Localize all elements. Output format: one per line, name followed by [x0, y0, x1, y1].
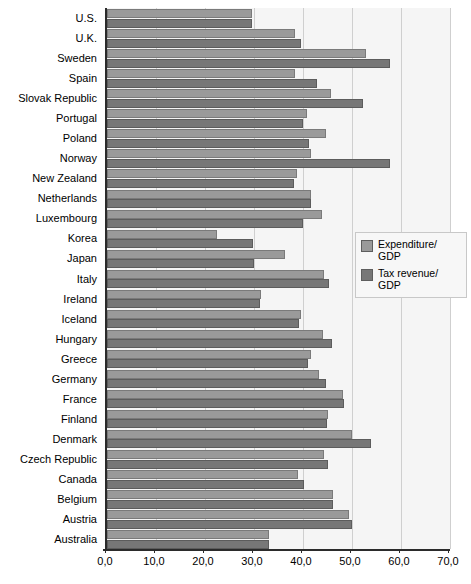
- category-axis-labels: U.S.U.K.SwedenSpainSlovak RepublicPortug…: [0, 8, 101, 549]
- category-label: Austria: [63, 513, 97, 525]
- bar-tax-revenue: [107, 99, 363, 108]
- bar-tax-revenue: [107, 79, 317, 88]
- category-label: Korea: [68, 232, 97, 244]
- category-label: Germany: [52, 373, 97, 385]
- category-label: Ireland: [63, 293, 97, 305]
- bar-expenditure: [107, 89, 331, 98]
- bar-tax-revenue: [107, 19, 252, 28]
- x-axis-tick: [399, 549, 400, 553]
- legend-label-expenditure: Expenditure/ GDP: [378, 239, 437, 262]
- bar-expenditure: [107, 9, 252, 18]
- bar-tax-revenue: [107, 159, 390, 168]
- bar-tax-revenue: [107, 500, 333, 509]
- bar-expenditure: [107, 169, 297, 178]
- category-label: Hungary: [55, 333, 97, 345]
- bar-tax-revenue: [107, 339, 332, 348]
- bar-chart: U.S.U.K.SwedenSpainSlovak RepublicPortug…: [0, 0, 471, 584]
- category-label: Canada: [58, 473, 97, 485]
- bar-expenditure: [107, 470, 298, 479]
- bar-expenditure: [107, 310, 301, 319]
- bar-expenditure: [107, 530, 269, 539]
- bar-tax-revenue: [107, 460, 328, 469]
- x-axis-tick-label: 60,0: [388, 555, 409, 567]
- category-label: Spain: [69, 72, 97, 84]
- bar-tax-revenue: [107, 179, 294, 188]
- bar-tax-revenue: [107, 139, 309, 148]
- bar-tax-revenue: [107, 199, 311, 208]
- category-label: Belgium: [57, 493, 97, 505]
- category-label: France: [63, 393, 97, 405]
- bar-tax-revenue: [107, 319, 299, 328]
- bar-expenditure: [107, 49, 366, 58]
- legend-label-tax-revenue: Tax revenue/ GDP: [378, 268, 438, 291]
- bar-expenditure: [107, 69, 295, 78]
- category-label: Luxembourg: [36, 212, 97, 224]
- bar-expenditure: [107, 210, 322, 219]
- bar-tax-revenue: [107, 359, 308, 368]
- bar-tax-revenue: [107, 59, 390, 68]
- category-label: Sweden: [57, 52, 97, 64]
- x-axis-tick: [448, 549, 449, 553]
- bar-expenditure: [107, 270, 324, 279]
- bar-expenditure: [107, 410, 328, 419]
- category-label: New Zealand: [32, 172, 97, 184]
- bar-expenditure: [107, 109, 307, 118]
- category-label: Czech Republic: [20, 453, 97, 465]
- category-label: U.K.: [76, 32, 97, 44]
- category-label: Denmark: [52, 433, 97, 445]
- bar-tax-revenue: [107, 540, 269, 549]
- bar-expenditure: [107, 29, 295, 38]
- bar-tax-revenue: [107, 379, 326, 388]
- bar-expenditure: [107, 370, 319, 379]
- category-label: Japan: [67, 252, 97, 264]
- category-label: Finland: [61, 413, 97, 425]
- bar-expenditure: [107, 129, 326, 138]
- bar-tax-revenue: [107, 239, 253, 248]
- category-label: Italy: [77, 273, 97, 285]
- x-axis-line: [103, 549, 450, 551]
- x-axis-tick: [350, 549, 351, 553]
- bar-expenditure: [107, 430, 352, 439]
- bar-tax-revenue: [107, 419, 327, 428]
- category-label: Greece: [61, 353, 97, 365]
- bar-tax-revenue: [107, 399, 344, 408]
- bar-tax-revenue: [107, 259, 254, 268]
- category-label: Iceland: [62, 313, 97, 325]
- x-axis-tick: [301, 549, 302, 553]
- bar-tax-revenue: [107, 480, 304, 489]
- chart-legend: Expenditure/ GDP Tax revenue/ GDP: [355, 232, 467, 298]
- bar-expenditure: [107, 230, 217, 239]
- bar-expenditure: [107, 330, 323, 339]
- x-axis-tick-label: 0,0: [97, 555, 112, 567]
- legend-item-tax-revenue: Tax revenue/ GDP: [361, 268, 462, 291]
- legend-swatch-tax-revenue-icon: [361, 269, 373, 281]
- category-label: Portugal: [56, 112, 97, 124]
- category-label: Netherlands: [38, 192, 97, 204]
- bar-tax-revenue: [107, 279, 329, 288]
- bar-tax-revenue: [107, 119, 303, 128]
- x-axis-tick: [154, 549, 155, 553]
- bar-expenditure: [107, 350, 311, 359]
- x-axis-tick: [203, 549, 204, 553]
- legend-swatch-expenditure-icon: [361, 240, 373, 252]
- bar-expenditure: [107, 149, 311, 158]
- x-axis-tick-label: 70,0: [437, 555, 458, 567]
- x-axis-tick-label: 40,0: [290, 555, 311, 567]
- category-label: Poland: [63, 132, 97, 144]
- gridline: [352, 8, 353, 549]
- x-axis-tick-label: 50,0: [339, 555, 360, 567]
- bar-expenditure: [107, 390, 343, 399]
- bar-expenditure: [107, 190, 311, 199]
- legend-item-expenditure: Expenditure/ GDP: [361, 239, 462, 262]
- category-label: Slovak Republic: [18, 92, 97, 104]
- bar-expenditure: [107, 250, 285, 259]
- bar-tax-revenue: [107, 39, 301, 48]
- bar-expenditure: [107, 510, 349, 519]
- bar-expenditure: [107, 290, 261, 299]
- x-axis-tick-label: 10,0: [143, 555, 164, 567]
- bar-tax-revenue: [107, 439, 371, 448]
- bar-expenditure: [107, 490, 333, 499]
- bar-expenditure: [107, 450, 324, 459]
- bar-tax-revenue: [107, 299, 260, 308]
- x-axis-tick: [252, 549, 253, 553]
